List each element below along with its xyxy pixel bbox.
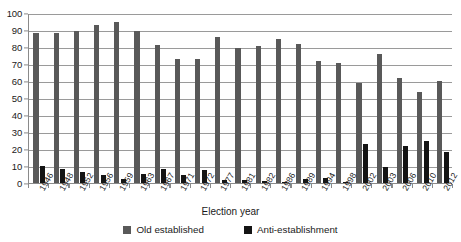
- bar-old-established: [356, 83, 361, 183]
- legend-swatch-icon: [123, 226, 131, 234]
- bar-group: [231, 14, 251, 183]
- bar-group: [433, 14, 453, 183]
- bar-group: [392, 14, 412, 183]
- bar-group: [69, 14, 89, 183]
- y-tick-label: 50: [12, 94, 22, 104]
- y-axis: 0102030405060708090100: [0, 14, 26, 184]
- y-tick-label: 70: [12, 60, 22, 70]
- bar-old-established: [296, 44, 301, 183]
- bar-old-established: [316, 61, 321, 183]
- bar-group: [150, 14, 170, 183]
- y-tick-label: 90: [12, 26, 22, 36]
- bar-group: [372, 14, 392, 183]
- y-tick-label: 80: [12, 43, 22, 53]
- legend-item-old-established: Old established: [123, 224, 204, 235]
- bar-group: [211, 14, 231, 183]
- legend-label: Old established: [136, 224, 204, 235]
- bar-group: [29, 14, 49, 183]
- bar-old-established: [235, 48, 240, 183]
- bar-old-established: [377, 54, 382, 183]
- bar-old-established: [256, 46, 261, 183]
- y-tick-label: 20: [12, 145, 22, 155]
- legend-label: Anti-establishment: [257, 224, 338, 235]
- bar-group: [413, 14, 433, 183]
- bar-old-established: [336, 63, 341, 183]
- y-tick-label: 10: [12, 162, 22, 172]
- y-tick-label: 100: [7, 9, 22, 19]
- bar-group: [352, 14, 372, 183]
- bar-old-established: [74, 31, 79, 183]
- bar-old-established: [276, 39, 281, 183]
- y-tick-label: 0: [17, 179, 22, 189]
- bar-old-established: [397, 78, 402, 183]
- bar-group: [90, 14, 110, 183]
- legend-swatch-icon: [244, 226, 252, 234]
- bar-old-established: [134, 31, 139, 183]
- x-axis-title: Election year: [0, 206, 461, 218]
- chart-legend: Old established Anti-establishment: [0, 224, 461, 235]
- bar-group: [332, 14, 352, 183]
- bar-old-established: [215, 37, 220, 183]
- y-tick-label: 30: [12, 128, 22, 138]
- bar-group: [312, 14, 332, 183]
- bar-group: [251, 14, 271, 183]
- bar-group: [191, 14, 211, 183]
- bar-group: [110, 14, 130, 183]
- bar-group: [271, 14, 291, 183]
- bar-group: [130, 14, 150, 183]
- legend-item-anti-establishment: Anti-establishment: [244, 224, 338, 235]
- bar-old-established: [195, 59, 200, 183]
- bar-old-established: [417, 92, 422, 183]
- bar-old-established: [33, 33, 38, 183]
- bar-old-established: [437, 81, 442, 183]
- bar-group: [291, 14, 311, 183]
- y-tick-label: 60: [12, 77, 22, 87]
- bars-layer: [29, 14, 452, 183]
- bar-old-established: [175, 59, 180, 183]
- bar-old-established: [54, 33, 59, 183]
- bar-group: [49, 14, 69, 183]
- bar-old-established: [94, 25, 99, 183]
- bar-chart: 0102030405060708090100 19461948195219561…: [0, 0, 461, 242]
- bar-group: [170, 14, 190, 183]
- y-tick-label: 40: [12, 111, 22, 121]
- bar-old-established: [155, 45, 160, 183]
- plot-area: [28, 14, 452, 184]
- bar-old-established: [114, 22, 119, 183]
